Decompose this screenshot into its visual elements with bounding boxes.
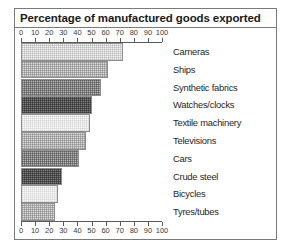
bar: [21, 132, 86, 150]
x-tick: [106, 38, 107, 42]
chart-frame: Percentage of manufactured goods exporte…: [14, 8, 277, 240]
bar: [21, 43, 123, 61]
bar: [21, 150, 79, 168]
x-tick-label: 40: [73, 28, 81, 37]
x-tick-label: 0: [19, 28, 23, 37]
x-tick-label: 10: [31, 226, 39, 235]
x-tick-label: 30: [59, 226, 67, 235]
bar: [21, 61, 108, 79]
x-axis-top-tick-labels: 0102030405060708090100: [15, 28, 278, 38]
x-tick-label: 20: [45, 28, 53, 37]
bar: [21, 96, 92, 114]
x-tick-label: 90: [144, 226, 152, 235]
x-tick: [134, 38, 135, 42]
x-tick-label: 100: [156, 226, 169, 235]
x-tick-label: 50: [87, 28, 95, 37]
x-tick-label: 100: [156, 28, 169, 37]
bar: [21, 168, 62, 186]
bar-series: [21, 43, 162, 221]
category-label: Crude steel: [173, 168, 218, 186]
x-tick: [148, 38, 149, 42]
x-tick: [35, 38, 36, 42]
bar: [21, 185, 58, 203]
x-tick: [77, 38, 78, 42]
x-tick-label: 20: [45, 226, 53, 235]
category-label: Textile machinery: [173, 114, 241, 132]
x-tick: [63, 38, 64, 42]
x-tick-label: 80: [130, 226, 138, 235]
x-tick-label: 70: [116, 226, 124, 235]
category-label: Watches/clocks: [173, 96, 234, 114]
category-label: Tyres/tubes: [173, 203, 219, 221]
category-label: Synthetic fabrics: [173, 79, 238, 97]
x-tick-label: 50: [87, 226, 95, 235]
x-tick: [162, 38, 163, 42]
x-tick-label: 0: [19, 226, 23, 235]
x-tick-label: 90: [144, 28, 152, 37]
category-label: Bicycles: [173, 185, 205, 203]
x-tick-label: 40: [73, 226, 81, 235]
x-tick-label: 80: [130, 28, 138, 37]
x-tick-label: 60: [101, 226, 109, 235]
x-tick-label: 30: [59, 28, 67, 37]
category-labels: CamerasShipsSynthetic fabricsWatches/clo…: [173, 43, 277, 221]
category-label: Cars: [173, 150, 192, 168]
x-tick-label: 70: [116, 28, 124, 37]
x-tick: [120, 38, 121, 42]
x-axis-bottom-tick-labels: 0102030405060708090100: [15, 226, 278, 236]
category-label: Ships: [173, 61, 195, 79]
bar: [21, 203, 55, 221]
x-tick: [21, 38, 22, 42]
x-tick: [92, 38, 93, 42]
x-tick-label: 10: [31, 28, 39, 37]
x-tick-label: 60: [101, 28, 109, 37]
x-tick: [49, 38, 50, 42]
category-label: Televisions: [173, 132, 216, 150]
x-axis-top-ticks: [21, 38, 162, 42]
bar: [21, 79, 101, 97]
bar: [21, 114, 90, 132]
chart-title: Percentage of manufactured goods exporte…: [15, 9, 276, 28]
category-label: Cameras: [173, 43, 209, 61]
